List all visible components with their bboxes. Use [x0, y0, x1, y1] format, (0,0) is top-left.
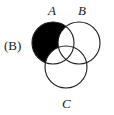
shaded-region-a-only	[0, 0, 114, 115]
set-label-a: A	[48, 4, 56, 17]
venn-diagram-svg	[0, 0, 114, 115]
panel-label: (B)	[4, 39, 21, 52]
set-label-b: B	[78, 4, 86, 17]
set-label-c: C	[62, 97, 71, 110]
venn-diagram-figure: (B) A B C	[0, 0, 114, 115]
